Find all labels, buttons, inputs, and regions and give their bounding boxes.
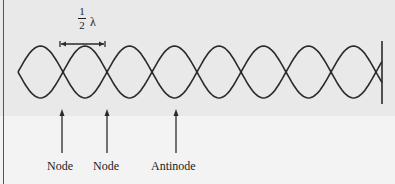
antinode-label: Antinode: [151, 159, 196, 174]
lambda-symbol: λ: [90, 15, 96, 30]
standing-wave-diagram: [0, 0, 395, 184]
node-label-1: Node: [47, 159, 73, 174]
standing-wave-envelope: [18, 46, 382, 98]
fraction-denominator: 2: [78, 20, 86, 31]
node-arrow-1: [60, 109, 65, 153]
wave-lower-curve: [18, 46, 382, 98]
half-fraction-label: 1 2: [78, 6, 86, 31]
fraction-numerator: 1: [78, 6, 86, 17]
node-label-2: Node: [93, 159, 119, 174]
node-arrow-2: [105, 109, 110, 153]
antinode-arrow: [174, 109, 179, 153]
wave-upper-curve: [18, 46, 382, 98]
